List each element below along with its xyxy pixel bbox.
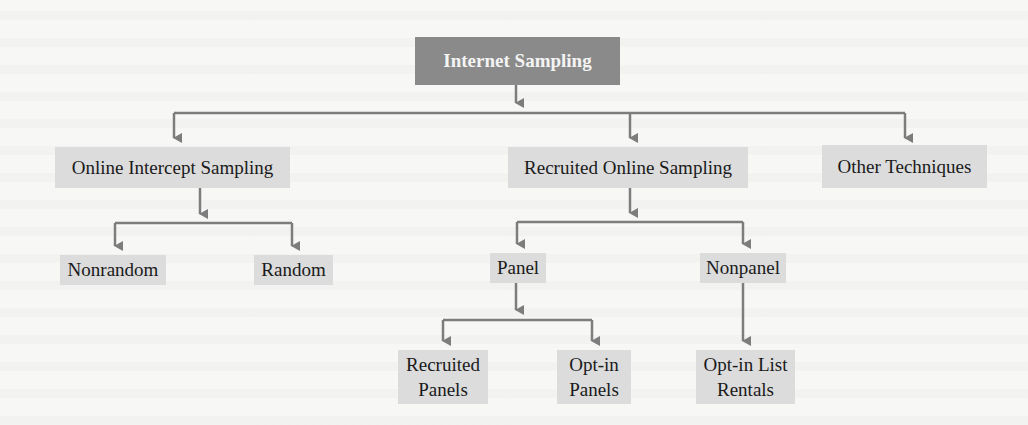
node-opt-in-panels: Opt-in Panels (557, 350, 631, 404)
node-random: Random (254, 255, 333, 285)
node-label: Online Intercept Sampling (72, 156, 274, 180)
node-nonrandom: Nonrandom (60, 255, 166, 285)
node-label: Nonpanel (706, 256, 780, 280)
node-panel: Panel (490, 253, 546, 283)
node-opt-in-list-rentals: Opt-in List Rentals (696, 350, 795, 404)
node-internet-sampling: Internet Sampling (415, 37, 620, 85)
node-online-intercept-sampling: Online Intercept Sampling (55, 147, 290, 188)
node-other-techniques: Other Techniques (822, 145, 987, 188)
node-label: Internet Sampling (443, 49, 591, 73)
node-recruited-online-sampling: Recruited Online Sampling (508, 147, 748, 188)
node-nonpanel: Nonpanel (700, 253, 786, 283)
node-label: Recruited Panels (398, 352, 488, 402)
node-recruited-panels: Recruited Panels (398, 350, 488, 404)
node-label: Nonrandom (68, 258, 159, 282)
node-label: Opt-in Panels (557, 352, 631, 402)
node-label: Recruited Online Sampling (524, 156, 732, 180)
node-label: Panel (497, 256, 539, 280)
node-label: Random (261, 258, 325, 282)
node-label: Opt-in List Rentals (696, 352, 795, 402)
node-label: Other Techniques (838, 155, 972, 179)
